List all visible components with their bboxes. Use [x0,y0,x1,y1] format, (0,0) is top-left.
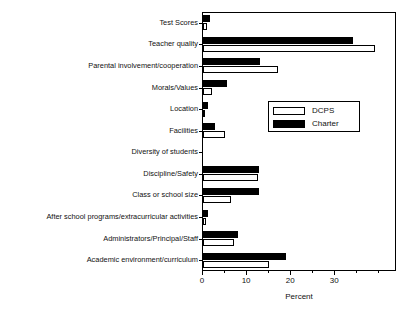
bar-dcps [203,218,206,225]
bar-chart: Test ScoresTeacher qualityParental invol… [0,0,404,313]
legend-swatch-dcps-icon [273,107,305,115]
x-axis-tick [202,271,203,275]
category-label: Test Scores [0,18,198,27]
bar-dcps [203,261,269,268]
bar-dcps [203,239,234,246]
legend-item-dcps: DCPS [273,105,355,116]
chart-row: Diversity of students [0,142,404,164]
category-label: Class or school size [0,190,198,199]
bar-dcps [203,23,207,30]
bar-charter [203,58,260,65]
category-label: Teacher quality [0,39,198,48]
bar-dcps [203,66,278,73]
chart-row: Parental involvement/cooperation [0,55,404,77]
category-label: Morals/Values [0,83,198,92]
category-rows: Test ScoresTeacher qualityParental invol… [0,12,404,271]
category-label: Facilities [0,126,198,135]
legend-label-dcps: DCPS [312,106,334,115]
chart-row: Teacher quality [0,34,404,56]
x-axis-title: Percent [202,292,396,301]
x-axis-tick [334,271,335,275]
chart-row: Academic environment/curriculum [0,249,404,271]
category-label: Discipline/Safety [0,169,198,178]
x-axis-tick-label: 20 [286,276,295,286]
chart-row: Test Scores [0,12,404,34]
legend-swatch-charter-icon [273,120,305,128]
bar-charter [203,102,208,109]
category-label: Academic environment/curriculum [0,255,198,264]
legend-item-charter: Charter [273,118,355,129]
bar-dcps [203,45,375,52]
category-label: After school programs/extracurricular ac… [0,212,198,221]
legend: DCPS Charter [268,101,360,132]
bar-charter [203,188,259,195]
bar-dcps [203,88,212,95]
chart-row: Morals/Values [0,77,404,99]
x-axis-tick-label: 10 [242,276,251,286]
x-axis-minor-tick [268,271,269,273]
bar-dcps [203,174,258,181]
chart-row: Administrators/Principal/Staff [0,228,404,250]
x-axis-minor-tick [312,271,313,273]
x-axis-tick [290,271,291,275]
bar-charter [203,123,215,130]
bar-charter [203,253,286,260]
bar-charter [203,37,353,44]
category-label: Parental involvement/cooperation [0,61,198,70]
bar-charter [203,166,259,173]
x-axis-tick-label: 0 [200,276,204,286]
bar-charter [203,15,210,22]
bar-dcps [203,110,205,117]
bar-charter [203,80,227,87]
x-axis: Percent 0102030 [202,271,396,313]
bar-charter [203,231,238,238]
chart-row: After school programs/extracurricular ac… [0,206,404,228]
bar-charter [203,210,208,217]
chart-row: Class or school size [0,185,404,207]
x-axis-minor-tick [378,271,379,273]
bar-dcps [203,131,225,138]
x-axis-minor-tick [224,271,225,273]
x-axis-tick-label: 30 [330,276,339,286]
chart-row: Discipline/Safety [0,163,404,185]
category-label: Administrators/Principal/Staff [0,234,198,243]
bar-dcps [203,196,231,203]
x-axis-tick [246,271,247,275]
category-label: Diversity of students [0,147,198,156]
category-label: Location [0,104,198,113]
y-axis-tick [199,152,203,153]
x-axis-minor-tick [356,271,357,273]
legend-label-charter: Charter [312,119,339,128]
